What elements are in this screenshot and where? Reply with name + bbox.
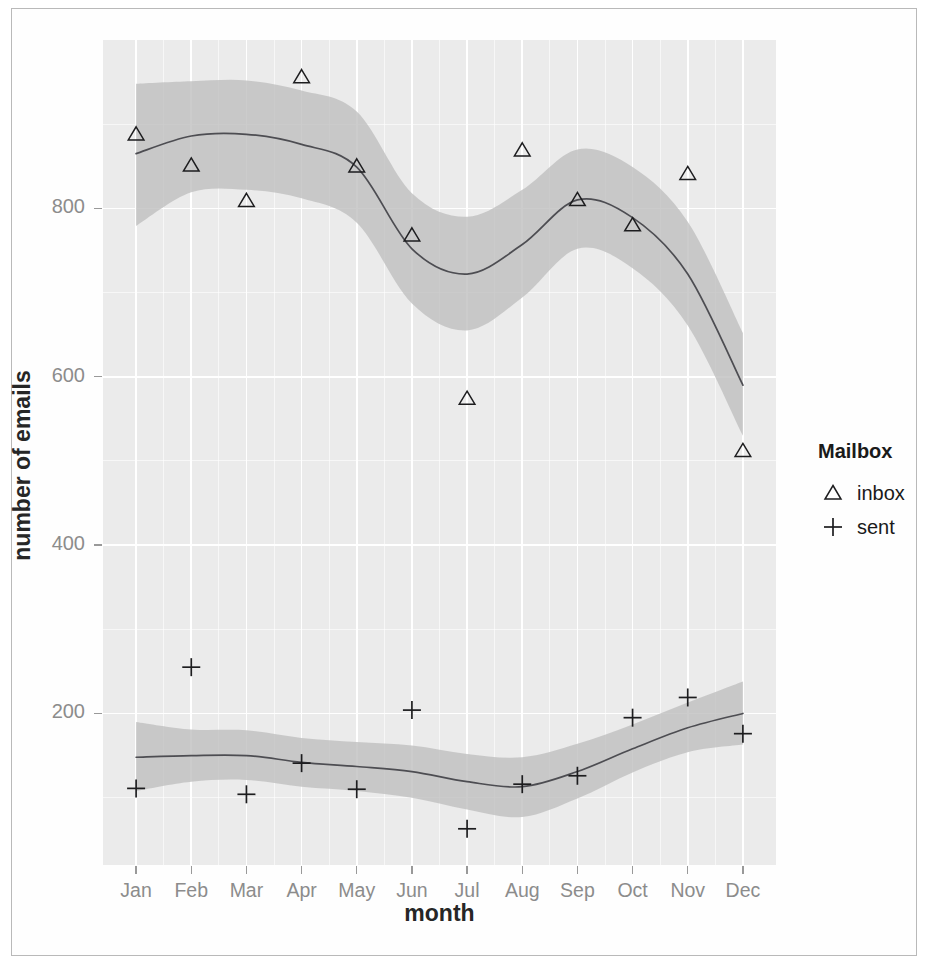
x-axis-tick bbox=[246, 866, 247, 874]
data-layer bbox=[103, 40, 776, 865]
marker-plus-sent-Jul bbox=[458, 820, 476, 838]
x-axis-tick-label: Jan bbox=[120, 879, 151, 902]
plot-panel bbox=[103, 40, 776, 865]
x-axis-tick-label: Jun bbox=[396, 879, 427, 902]
x-axis-title: month bbox=[0, 900, 879, 927]
legend-item-label: sent bbox=[857, 516, 895, 539]
x-axis-tick bbox=[742, 866, 743, 874]
x-axis-tick bbox=[356, 866, 357, 874]
x-axis-tick bbox=[301, 866, 302, 874]
x-axis-tick bbox=[577, 866, 578, 874]
y-axis-tick bbox=[94, 713, 102, 714]
legend-item-label: inbox bbox=[857, 482, 905, 505]
x-axis-tick-label: Feb bbox=[174, 879, 208, 902]
x-axis-tick bbox=[687, 866, 688, 874]
y-axis-tick bbox=[94, 376, 102, 377]
marker-triangle-inbox-Dec bbox=[735, 443, 751, 456]
y-axis-tick bbox=[94, 208, 102, 209]
marker-plus-sent-Jun bbox=[403, 701, 421, 719]
legend-items: inboxsent bbox=[818, 477, 923, 543]
marker-plus-sent-Feb bbox=[182, 658, 200, 676]
chart-figure: 200400600800 JanFebMarAprMayJunJulAugSep… bbox=[0, 0, 931, 976]
marker-plus-sent-Mar bbox=[237, 785, 255, 803]
x-axis-tick-label: May bbox=[338, 879, 375, 902]
x-axis-tick bbox=[522, 866, 523, 874]
marker-triangle-inbox-Jul bbox=[459, 391, 475, 404]
x-axis-tick bbox=[135, 866, 136, 874]
legend-triangle-icon bbox=[818, 478, 848, 508]
x-axis-tick-label: Dec bbox=[726, 879, 761, 902]
x-axis-tick-label: Sep bbox=[560, 879, 595, 902]
legend-item-inbox[interactable]: inbox bbox=[818, 477, 923, 509]
x-axis-tick-label: Apr bbox=[286, 879, 316, 902]
legend-item-sent[interactable]: sent bbox=[818, 511, 923, 543]
x-axis-tick bbox=[411, 866, 412, 874]
y-axis-tick bbox=[94, 544, 102, 545]
x-axis-tick-label: Jul bbox=[455, 879, 480, 902]
confidence-ribbons bbox=[136, 80, 743, 818]
x-axis-tick bbox=[632, 866, 633, 874]
marker-triangle-inbox-Mar bbox=[239, 193, 255, 206]
marker-triangle-inbox-Apr bbox=[294, 70, 310, 83]
x-axis-tick bbox=[191, 866, 192, 874]
legend-plus-icon bbox=[818, 512, 848, 542]
x-axis-tick-label: Nov bbox=[670, 879, 705, 902]
x-axis-tick-label: Aug bbox=[505, 879, 540, 902]
marker-triangle-inbox-Aug bbox=[514, 143, 530, 156]
legend: Mailbox inboxsent bbox=[818, 440, 923, 545]
legend-title: Mailbox bbox=[818, 440, 923, 463]
x-axis-tick-label: Oct bbox=[617, 879, 647, 902]
x-axis-tick bbox=[466, 866, 467, 874]
marker-triangle-inbox-Nov bbox=[680, 166, 696, 179]
x-axis-tick-label: Mar bbox=[230, 879, 264, 902]
y-axis-title: number of emails bbox=[9, 216, 36, 716]
confidence-ribbon-sent bbox=[136, 681, 743, 817]
